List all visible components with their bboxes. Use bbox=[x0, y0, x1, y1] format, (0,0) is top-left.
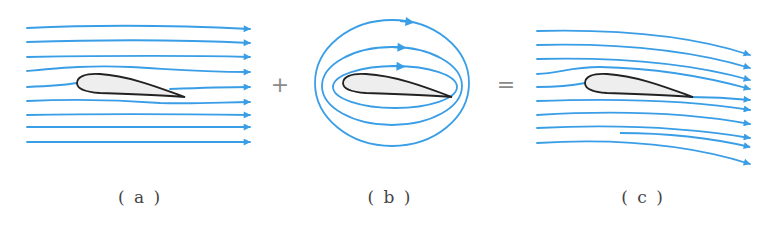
plus-operator: + bbox=[271, 72, 289, 97]
airfoil-c bbox=[585, 74, 693, 97]
figure-canvas: + = ( a ) ( b ) ( c ) bbox=[0, 0, 777, 227]
equals-operator: = bbox=[497, 72, 515, 97]
streamline bbox=[537, 45, 750, 68]
streamline bbox=[537, 100, 750, 110]
panel-a-label: ( a ) bbox=[118, 187, 162, 207]
panel-b-label: ( b ) bbox=[368, 187, 413, 207]
circulation-arrow-inner bbox=[391, 66, 401, 67]
streamline bbox=[27, 66, 250, 72]
panel-c-label: ( c ) bbox=[621, 187, 665, 207]
streamline bbox=[27, 26, 250, 29]
streamline bbox=[537, 126, 750, 138]
streamline bbox=[27, 114, 250, 115]
streamline bbox=[27, 40, 250, 43]
circulation-arrow-middle bbox=[392, 47, 402, 48]
streamline bbox=[537, 31, 750, 55]
streamline bbox=[27, 56, 250, 57]
streamline bbox=[537, 113, 750, 124]
streamline bbox=[537, 141, 750, 164]
circulation-arrow-outer bbox=[400, 21, 410, 22]
airfoil-b bbox=[343, 74, 452, 97]
panel-c-streamlines bbox=[537, 31, 750, 164]
streamline bbox=[27, 100, 250, 103]
airfoil-a bbox=[77, 74, 185, 97]
